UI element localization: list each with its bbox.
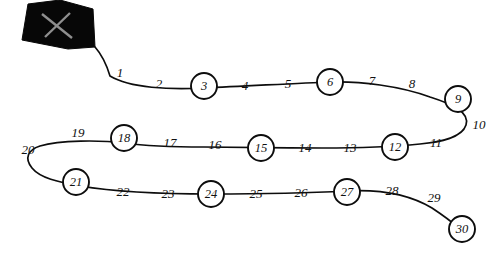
waypoint-27: 27 — [334, 179, 360, 205]
waypoint-label-21: 21 — [70, 175, 83, 189]
waypoint-label-10: 10 — [473, 117, 486, 132]
path-diagram-svg: 1234567891011121314151617181920212223242… — [0, 0, 486, 255]
waypoint-22: 22 — [117, 184, 131, 199]
waypoint-label-9: 9 — [455, 92, 462, 106]
waypoint-label-25: 25 — [250, 186, 264, 201]
waypoint-24: 24 — [198, 181, 224, 207]
waypoint-label-22: 22 — [117, 184, 131, 199]
waypoint-label-23: 23 — [162, 186, 176, 201]
waypoint-28: 28 — [386, 183, 400, 198]
waypoint-3: 3 — [191, 73, 217, 99]
waypoint-12: 12 — [382, 134, 408, 160]
waypoint-30: 30 — [449, 216, 475, 242]
waypoint-label-2: 2 — [156, 76, 163, 91]
waypoint-26: 26 — [295, 185, 309, 200]
waypoint-label-18: 18 — [118, 131, 131, 145]
waypoint-20: 20 — [22, 142, 36, 157]
waypoint-4: 4 — [242, 78, 249, 93]
waypoint-label-11: 11 — [430, 135, 442, 150]
waypoint-18: 18 — [111, 125, 137, 151]
waypoint-10: 10 — [473, 117, 486, 132]
waypoint-17: 17 — [164, 135, 178, 150]
waypoint-5: 5 — [285, 76, 292, 91]
waypoint-15: 15 — [248, 135, 274, 161]
diagram-canvas: 1234567891011121314151617181920212223242… — [0, 0, 486, 255]
waypoint-2: 2 — [156, 76, 163, 91]
waypoint-29: 29 — [428, 190, 442, 205]
waypoint-label-5: 5 — [285, 76, 292, 91]
waypoint-label-14: 14 — [299, 140, 313, 155]
waypoint-label-24: 24 — [205, 187, 218, 201]
waypoint-label-20: 20 — [22, 142, 36, 157]
waypoint-label-6: 6 — [327, 75, 334, 89]
waypoint-label-27: 27 — [341, 185, 354, 199]
waypoint-6: 6 — [317, 69, 343, 95]
waypoint-23: 23 — [162, 186, 176, 201]
waypoint-16: 16 — [209, 137, 223, 152]
waypoint-label-4: 4 — [242, 78, 249, 93]
waypoint-label-8: 8 — [409, 76, 416, 91]
waypoint-label-28: 28 — [386, 183, 400, 198]
waypoint-label-7: 7 — [369, 73, 376, 88]
waypoint-25: 25 — [250, 186, 264, 201]
waypoint-label-3: 3 — [200, 79, 207, 93]
waypoint-label-15: 15 — [255, 141, 268, 155]
waypoint-label-26: 26 — [295, 185, 309, 200]
waypoint-13: 13 — [344, 140, 358, 155]
waypoint-label-19: 19 — [72, 125, 86, 140]
waypoint-19: 19 — [72, 125, 86, 140]
waypoint-markers: 1234567891011121314151617181920212223242… — [22, 65, 486, 242]
waypoint-14: 14 — [299, 140, 313, 155]
waypoint-label-16: 16 — [209, 137, 223, 152]
waypoint-label-12: 12 — [389, 140, 402, 154]
waypoint-9: 9 — [445, 86, 471, 112]
waypoint-11: 11 — [430, 135, 442, 150]
waypoint-label-17: 17 — [164, 135, 178, 150]
waypoint-21: 21 — [63, 169, 89, 195]
waypoint-7: 7 — [369, 73, 376, 88]
waypoint-1: 1 — [117, 65, 124, 80]
waypoint-label-13: 13 — [344, 140, 358, 155]
waypoint-label-29: 29 — [428, 190, 442, 205]
waypoint-8: 8 — [409, 76, 416, 91]
waypoint-label-1: 1 — [117, 65, 124, 80]
kite-shape-group — [22, 0, 95, 49]
waypoint-label-30: 30 — [455, 222, 469, 236]
